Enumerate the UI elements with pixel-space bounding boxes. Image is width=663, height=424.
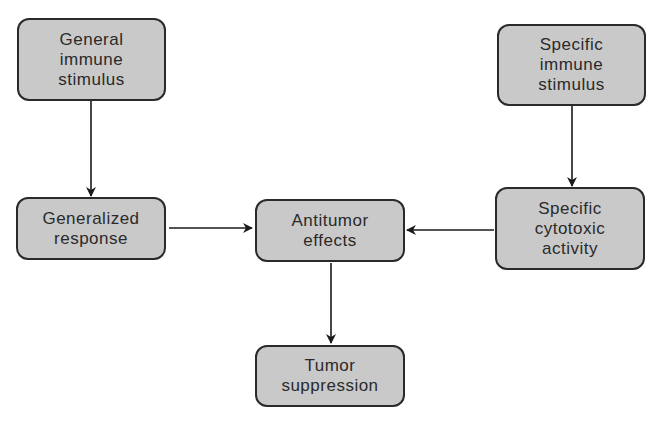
node-label-line: General [60, 30, 124, 50]
node-antitumor-effects: Antitumor effects [255, 199, 405, 262]
node-specific-cytotoxic-activity: Specific cytotoxic activity [495, 187, 645, 270]
node-label-line: immune [60, 50, 123, 70]
node-label-line: effects [303, 231, 356, 251]
node-label-line: suppression [281, 376, 378, 396]
node-label-line: response [54, 229, 128, 249]
node-label-line: Specific [538, 199, 602, 219]
node-label-line: Generalized [42, 209, 139, 229]
node-label-line: Antitumor [291, 211, 368, 231]
node-label-line: immune [540, 55, 603, 75]
node-specific-immune-stimulus: Specific immune stimulus [497, 24, 646, 106]
node-label-line: Specific [540, 35, 604, 55]
node-label-line: stimulus [538, 75, 604, 95]
node-generalized-response: Generalized response [16, 197, 166, 260]
node-label-line: cytotoxic [535, 219, 606, 239]
node-label-line: activity [542, 239, 598, 259]
node-label-line: stimulus [58, 70, 124, 90]
node-label-line: Tumor [305, 356, 356, 376]
node-general-immune-stimulus: General immune stimulus [17, 18, 166, 101]
node-tumor-suppression: Tumor suppression [255, 345, 405, 407]
